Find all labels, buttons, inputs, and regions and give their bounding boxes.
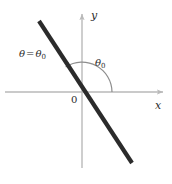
figure-canvas xyxy=(0,0,172,184)
angle-theta-subscript: 0 xyxy=(101,62,105,70)
origin-label: 0 xyxy=(71,95,77,105)
polar-angle-line-figure: y x 0 θ=θ0 θ0 xyxy=(0,0,172,184)
angle-label: θ0 xyxy=(95,58,106,68)
theta-zero-subscript: 0 xyxy=(41,53,45,61)
equals-symbol: = xyxy=(25,48,35,59)
y-axis-label: y xyxy=(91,10,97,21)
line-equation-label: θ=θ0 xyxy=(19,49,46,59)
x-axis-label: x xyxy=(155,100,161,111)
